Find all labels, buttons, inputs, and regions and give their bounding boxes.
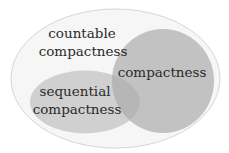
- venn-diagram: countable compactness compactness sequen…: [0, 0, 229, 153]
- sequential-compactness-label-line2: compactness: [33, 101, 122, 117]
- sequential-compactness-label-line1: sequential: [39, 83, 110, 99]
- countable-compactness-label-line2: compactness: [39, 43, 128, 59]
- countable-compactness-label-line1: countable: [48, 25, 116, 41]
- compactness-label: compactness: [118, 64, 207, 80]
